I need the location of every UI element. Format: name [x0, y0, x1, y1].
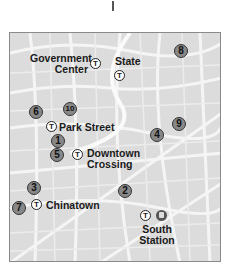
government-center-t-icon[interactable]: T: [90, 58, 101, 69]
downtown-crossing-label: Downtown Crossing: [87, 148, 140, 170]
government-center-label: Government Center: [30, 53, 88, 75]
chinatown-t-icon[interactable]: T: [31, 199, 42, 210]
marker-2[interactable]: 2: [118, 184, 132, 198]
chinatown-label: Chinatown: [46, 200, 100, 211]
commuter-rail-icon[interactable]: [156, 210, 167, 221]
state-t-icon[interactable]: T: [114, 70, 125, 81]
south-station-label: South Station: [134, 224, 180, 246]
marker-9[interactable]: 9: [172, 117, 186, 131]
marker-10[interactable]: 10: [63, 102, 77, 116]
compass-tick: [112, 1, 114, 11]
marker-8[interactable]: 8: [174, 44, 188, 58]
downtown-crossing-label-line2: Crossing: [87, 159, 140, 170]
marker-7[interactable]: 7: [12, 201, 26, 215]
marker-1[interactable]: 1: [51, 134, 65, 148]
marker-5[interactable]: 5: [50, 148, 64, 162]
marker-6[interactable]: 6: [29, 105, 43, 119]
south-station-label-line2: Station: [134, 235, 180, 246]
south-station-t-icon[interactable]: T: [140, 210, 151, 221]
marker-3[interactable]: 3: [27, 181, 41, 195]
downtown-crossing-t-icon[interactable]: T: [72, 149, 83, 160]
marker-4[interactable]: 4: [150, 128, 164, 142]
government-center-label-line2: Center: [30, 64, 88, 75]
state-label: State: [115, 56, 141, 67]
park-street-label: Park Street: [59, 122, 114, 133]
park-street-t-icon[interactable]: T: [46, 121, 57, 132]
